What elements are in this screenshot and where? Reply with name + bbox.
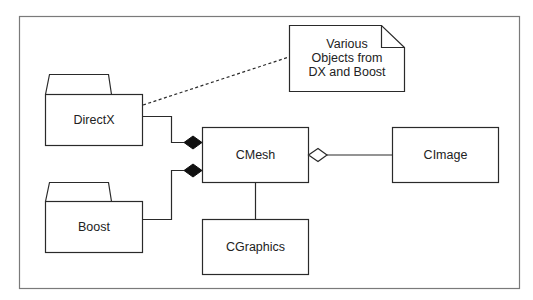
note-text: Various Objects from DX and Boost — [290, 25, 404, 91]
class-cmesh-label: CMesh — [202, 127, 309, 183]
package-tab — [46, 75, 112, 95]
package-directx-label: DirectX — [45, 94, 143, 146]
note-line-3: DX and Boost — [308, 65, 385, 79]
note-line-2: Objects from — [312, 51, 383, 65]
class-cimage-label: CImage — [392, 127, 499, 183]
note-line-1: Various — [326, 37, 367, 51]
package-boost-label: Boost — [45, 201, 143, 253]
package-tab — [46, 183, 112, 202]
class-cgraphics-label: CGraphics — [202, 219, 309, 275]
